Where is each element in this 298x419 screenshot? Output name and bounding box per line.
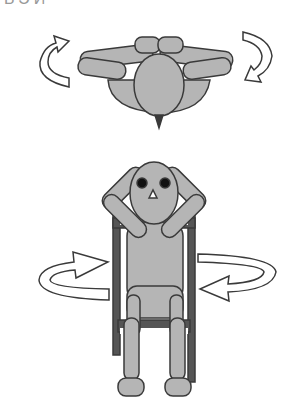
rotate-right-arrow-icon: [39, 252, 109, 300]
left-hand-top: [135, 37, 160, 53]
exercise-diagram: [0, 0, 298, 419]
clockwise-arrow-icon: [243, 32, 272, 82]
left-eye: [137, 178, 147, 188]
counter-clockwise-arrow-icon: [40, 36, 69, 87]
right-hand-top: [158, 37, 183, 53]
left-shin: [124, 318, 139, 380]
right-foot: [165, 378, 191, 396]
front-view-figure: [99, 162, 209, 396]
left-foot: [118, 378, 144, 396]
top-view-figure: [77, 37, 234, 128]
right-shin: [170, 318, 185, 380]
head-top: [134, 54, 184, 116]
right-eye: [160, 178, 170, 188]
nose-top: [155, 115, 163, 128]
rotate-left-arrow-icon: [198, 254, 276, 301]
